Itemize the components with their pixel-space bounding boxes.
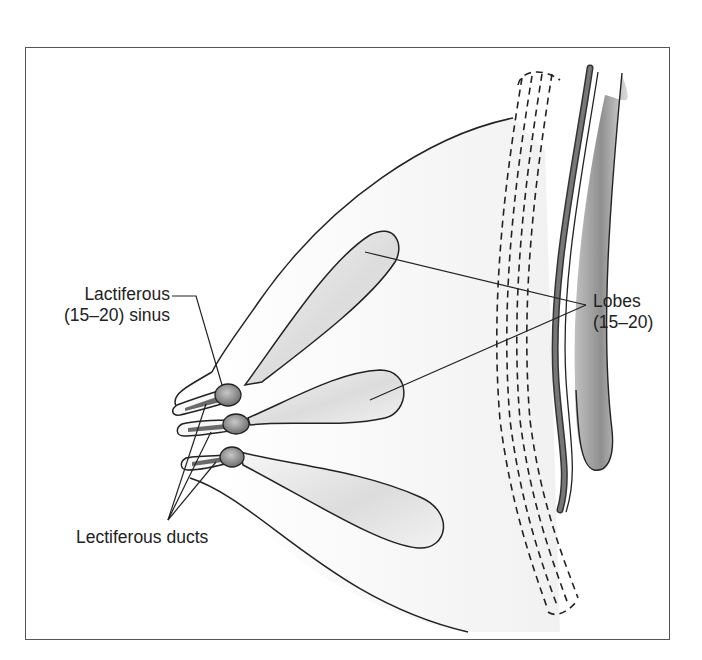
sinus-upper [215,384,241,406]
sinus-lower [220,447,244,467]
label-lactiferous-sinus: Lactiferous (15–20) sinus [60,284,170,326]
label-sinus-line2: (15–20) sinus [60,305,170,326]
sinus-middle [223,414,249,434]
label-lobes-line2: (15–20) [593,312,653,333]
label-lobes: Lobes (15–20) [593,291,653,333]
label-lobes-line1: Lobes [593,291,653,312]
label-sinus-line1: Lactiferous [60,284,170,305]
sinus-leader [172,296,222,385]
label-lectiferous-ducts: Lectiferous ducts [76,527,208,548]
